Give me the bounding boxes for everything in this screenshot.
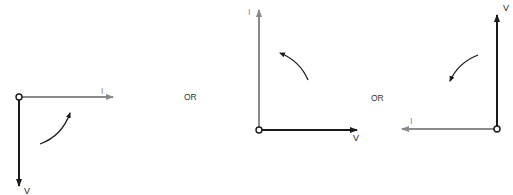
separator-or-1: OR	[184, 92, 197, 102]
origin-point	[16, 94, 22, 100]
voltage-label: V	[503, 3, 509, 13]
phasor-diagram-1: I V	[16, 86, 113, 195]
current-label: I	[410, 116, 413, 126]
phasor-diagram-3: V I	[402, 3, 509, 132]
voltage-label: V	[24, 186, 30, 195]
origin-point	[256, 127, 262, 133]
current-label: I	[101, 86, 104, 96]
current-label: I	[248, 7, 251, 17]
rotation-arrow-icon	[280, 53, 308, 80]
separator-or-2: OR	[371, 93, 384, 103]
origin-point	[494, 126, 500, 132]
phasor-diagram-2: I V	[248, 7, 359, 143]
voltage-label: V	[353, 133, 359, 143]
phasor-diagrams: I V OR I V OR V I	[0, 0, 513, 195]
rotation-arrow-icon	[450, 55, 478, 81]
rotation-arrow-icon	[40, 113, 70, 144]
